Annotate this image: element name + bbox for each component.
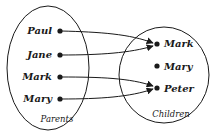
dot-jane bbox=[57, 52, 62, 57]
dot-mark-parent bbox=[57, 74, 62, 79]
children-set-label: Children bbox=[152, 109, 189, 119]
arrow-paul-mark bbox=[61, 31, 153, 43]
parents-set-label: Parents bbox=[40, 114, 74, 124]
dot-paul bbox=[57, 28, 62, 33]
dot-mary-parent bbox=[57, 96, 62, 101]
label-mary-child: Mary bbox=[163, 61, 194, 72]
arrow-mary-peter bbox=[61, 89, 153, 99]
label-peter-child: Peter bbox=[163, 83, 195, 94]
mapping-diagram: Paul Jane Mark Mary Mark Mary Peter Pare… bbox=[0, 0, 220, 136]
arrow-jane-mark bbox=[61, 46, 153, 55]
label-jane: Jane bbox=[25, 49, 52, 60]
dot-peter-child bbox=[154, 85, 159, 90]
label-mary-parent: Mary bbox=[22, 93, 53, 104]
arrow-mark-peter bbox=[61, 77, 153, 86]
label-mark-child: Mark bbox=[163, 38, 194, 49]
dot-mark-child bbox=[154, 41, 159, 46]
label-mark-parent: Mark bbox=[21, 71, 52, 82]
label-paul: Paul bbox=[26, 25, 52, 36]
dot-mary-child bbox=[154, 63, 159, 68]
